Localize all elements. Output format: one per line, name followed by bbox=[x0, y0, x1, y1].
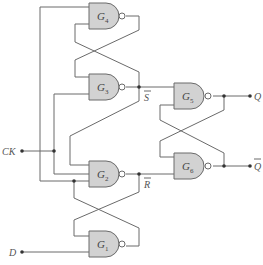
svg-text:2: 2 bbox=[105, 175, 109, 183]
ck-input-label: CK bbox=[2, 146, 17, 157]
svg-text:G: G bbox=[182, 160, 190, 172]
logic-circuit-diagram: G 4 G 3 G 5 G 6 G 2 G 1 bbox=[0, 0, 263, 265]
svg-text:4: 4 bbox=[105, 17, 109, 25]
svg-text:G: G bbox=[97, 168, 105, 180]
gate-g1: G 1 bbox=[89, 231, 125, 257]
svg-text:6: 6 bbox=[190, 167, 194, 175]
svg-text:G: G bbox=[97, 238, 105, 250]
gate-g6: G 6 bbox=[174, 153, 211, 179]
svg-text:G: G bbox=[97, 81, 105, 93]
gate-g2: G 2 bbox=[89, 161, 125, 187]
q-output-label: Q bbox=[254, 91, 262, 102]
d-input-label: D bbox=[8, 247, 17, 258]
svg-text:3: 3 bbox=[105, 88, 109, 96]
gate-g4: G 4 bbox=[89, 3, 125, 29]
rbar-signal-label: R bbox=[143, 179, 150, 190]
gate-g3: G 3 bbox=[89, 74, 125, 100]
svg-text:1: 1 bbox=[105, 245, 109, 253]
gate-g4-label: G bbox=[97, 10, 105, 22]
svg-text:5: 5 bbox=[190, 97, 194, 105]
sbar-signal-label: S bbox=[144, 92, 149, 103]
junctions bbox=[20, 85, 252, 254]
svg-text:G: G bbox=[182, 90, 190, 102]
wires bbox=[22, 7, 250, 252]
gate-g5: G 5 bbox=[174, 83, 211, 109]
qbar-output-label: Q bbox=[254, 161, 262, 172]
